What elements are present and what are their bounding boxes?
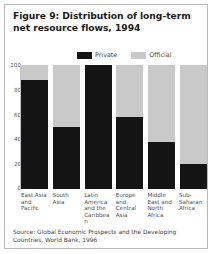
bar-south-asia: [53, 65, 80, 189]
bar-segment-private: [180, 164, 207, 189]
x-label-europe-and-central-asia: Europe and Central Asia: [116, 192, 144, 225]
bar-segment-private: [116, 117, 143, 189]
bar-east-asia-and-pacific: [21, 65, 48, 189]
bar-segment-private: [53, 127, 80, 189]
bar-segment-private: [148, 142, 175, 189]
bar-middle-east-and-north-africa: [148, 65, 175, 189]
bar-segment-official: [180, 65, 207, 164]
bar-segment-official: [53, 65, 80, 127]
bar-segment-official: [148, 65, 175, 142]
bar-segment-official: [21, 65, 48, 80]
x-label-sub-saharan-africa: Sub-Saharan Africa: [179, 192, 207, 225]
plot-area: 100 80 60 40 20 0: [5, 5, 209, 250]
x-axis-labels: East Asia and Pacific South Asia Latin A…: [21, 192, 207, 225]
bar-latin-america-and-the-caribbean: [85, 65, 112, 189]
x-label-south-asia: South Asia: [53, 192, 81, 225]
figure-container: Figure 9: Distribution of long-term net …: [4, 4, 208, 249]
bar-europe-and-central-asia: [116, 65, 143, 189]
bar-segment-private: [85, 65, 112, 189]
x-label-east-asia-and-pacific: East Asia and Pacific: [21, 192, 49, 225]
bar-segment-official: [116, 65, 143, 117]
x-label-middle-east-and-north-africa: Middle East and North Africa: [147, 192, 175, 225]
bar-segment-private: [21, 80, 48, 189]
bar-sub-saharan-africa: [180, 65, 207, 189]
x-label-latin-america-and-the-caribbean: Latin America and the Caribbean: [84, 192, 112, 225]
source-note: Source: Global Economic Prospects and th…: [13, 228, 201, 244]
bar-group: [21, 65, 207, 189]
